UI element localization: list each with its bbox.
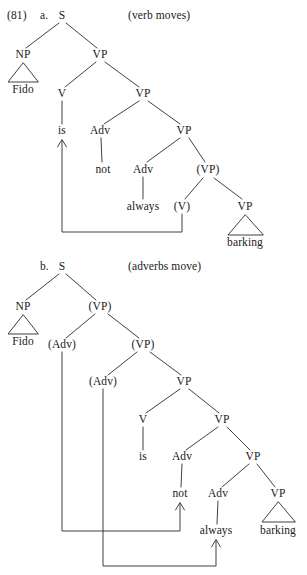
tree-b-node-vp-trace-1: (VP) [89, 301, 112, 313]
tree-a-vp-triangle [228, 215, 263, 235]
tree-b-node-v: V [139, 414, 147, 426]
tree-a-leaf-is: is [58, 125, 66, 137]
tree-b-node-adv-trace-2: (Adv) [89, 376, 117, 388]
tree-b-node-vp-3: VP [246, 451, 261, 463]
figure-canvas: (81) a. (verb moves) S NP VP Fido V VP i… [0, 0, 307, 575]
tree-b-node-vp-trace-2: (VP) [132, 339, 155, 351]
tree-b-node-vp-4: VP [271, 488, 286, 500]
tree-b-letter: b. [40, 261, 49, 273]
tree-b-node-adv-trace-1: (Adv) [48, 339, 76, 351]
tree-a-node-adv-2: Adv [133, 164, 153, 176]
tree-a-leaf-barking: barking [227, 237, 263, 249]
tree-b-node-adv-1: Adv [172, 451, 192, 463]
tree-b-movement-path-2 [103, 389, 221, 566]
tree-b-leaf-fido: Fido [12, 336, 34, 348]
tree-a-node-vp-1: VP [93, 49, 108, 61]
tree-b-node-s: S [59, 261, 66, 273]
tree-a-node-v: V [58, 88, 66, 100]
tree-a-node-vp-3: VP [177, 125, 192, 137]
tree-b-leaf-barking: barking [260, 525, 296, 537]
tree-b-leaf-not: not [173, 488, 188, 500]
tree-a-movement-path [58, 140, 183, 233]
tree-b-leaf-always: always [200, 525, 233, 537]
tree-a-letter: a. [40, 10, 48, 22]
tree-a-node-np: NP [16, 49, 31, 61]
tree-a-node-vp-trace: (VP) [197, 164, 220, 176]
tree-a-leaf-fido: Fido [12, 84, 34, 96]
tree-a-node-v-trace: (V) [174, 201, 190, 213]
tree-b-movement-path-1 [62, 352, 185, 531]
tree-a-caption: (verb moves) [128, 10, 190, 22]
tree-lines-layer [0, 0, 307, 575]
tree-b-np-triangle [8, 315, 38, 334]
tree-a-leaf-not: not [96, 164, 111, 176]
tree-b-caption: (adverbs move) [128, 261, 201, 273]
tree-b-node-vp-1: VP [177, 376, 192, 388]
tree-b-branches [26, 274, 275, 524]
tree-b-node-adv-2: Adv [208, 488, 228, 500]
tree-b-leaf-is: is [139, 451, 147, 463]
tree-a-leaf-always: always [127, 201, 160, 213]
tree-b-vp-triangle [262, 502, 295, 522]
tree-a-np-triangle [8, 63, 38, 82]
tree-b-node-vp-2: VP [215, 414, 230, 426]
tree-a-node-s: S [59, 10, 66, 22]
example-number: (81) [7, 10, 27, 22]
tree-a-node-vp-4: VP [238, 201, 253, 213]
tree-a-node-vp-2: VP [136, 88, 151, 100]
tree-a-node-adv-1: Adv [90, 125, 110, 137]
tree-b-node-np: NP [16, 301, 31, 313]
